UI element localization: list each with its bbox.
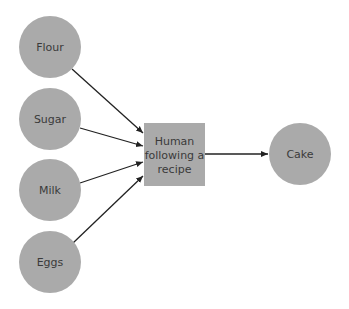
process-label-line-2: following a — [145, 149, 205, 162]
node-milk: Milk — [19, 159, 81, 221]
node-eggs: Eggs — [19, 231, 81, 293]
flour-label: Flour — [36, 41, 64, 54]
milk-label: Milk — [39, 184, 62, 197]
sugar-label: Sugar — [34, 113, 67, 126]
node-human-following-recipe: Human following a recipe — [144, 123, 205, 186]
eggs-label: Eggs — [37, 256, 64, 269]
edge-milk-to-human — [80, 162, 143, 183]
edge-flour-to-human — [72, 69, 143, 133]
edge-eggs-to-human — [73, 176, 143, 243]
node-sugar: Sugar — [19, 88, 81, 150]
edge-sugar-to-human — [80, 128, 143, 146]
process-label-line-3: recipe — [158, 163, 192, 176]
node-cake: Cake — [269, 123, 331, 185]
cake-label: Cake — [286, 148, 313, 161]
process-label-line-1: Human — [155, 135, 195, 148]
node-flour: Flour — [19, 16, 81, 78]
recipe-diagram: Flour Sugar Milk Eggs Human following a … — [0, 0, 349, 309]
